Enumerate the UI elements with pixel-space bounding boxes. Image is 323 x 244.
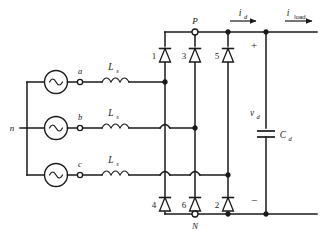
svg-text:i: i	[239, 8, 242, 18]
diode-3	[189, 49, 201, 63]
phase-c-branch	[27, 164, 230, 187]
ac-source-c	[45, 164, 68, 187]
diode-1	[159, 49, 171, 63]
svg-text:L: L	[107, 62, 113, 72]
diode-6	[189, 198, 201, 212]
terminal-c	[77, 172, 82, 177]
diode-4	[159, 198, 171, 212]
label-diode-1: 1	[152, 51, 157, 61]
label-current-id: i d	[239, 8, 248, 20]
label-terminal-a: a	[78, 66, 82, 76]
label-diode-4: 4	[152, 200, 157, 210]
label-inductor-b: L s	[107, 108, 119, 120]
diode-2	[222, 198, 234, 212]
label-diode-5: 5	[215, 51, 220, 61]
phase-b-branch	[27, 117, 197, 140]
junction-cap-bottom	[264, 212, 269, 217]
neutral-bus	[20, 82, 27, 175]
svg-text:C: C	[280, 130, 287, 140]
svg-text:d: d	[244, 13, 248, 20]
label-terminal-c: c	[78, 159, 82, 169]
circuit-diagram: n a b c L s L s L s 1 3 5 4 6 2 P N + −	[0, 0, 323, 244]
svg-text:L: L	[107, 108, 113, 118]
label-node-N: N	[191, 221, 199, 231]
diode-5	[222, 49, 234, 63]
ac-source-a	[45, 71, 68, 94]
phase-a-branch	[27, 71, 167, 94]
svg-text:s: s	[116, 67, 119, 74]
label-neutral: n	[10, 123, 15, 133]
junction-leg-c-top	[226, 30, 231, 35]
ac-source-b	[45, 117, 68, 140]
svg-text:d: d	[288, 135, 292, 142]
terminal-a	[77, 79, 82, 84]
label-polarity-minus: −	[251, 194, 257, 206]
label-polarity-plus: +	[251, 39, 257, 51]
svg-text:L: L	[107, 155, 113, 165]
label-inductor-c: L s	[107, 155, 119, 167]
circuit-canvas: n a b c L s L s L s 1 3 5 4 6 2 P N + −	[0, 0, 323, 244]
svg-text:d: d	[256, 113, 260, 120]
node-N	[192, 211, 198, 217]
inductor-b	[102, 124, 129, 128]
svg-text:i: i	[287, 8, 290, 18]
label-diode-3: 3	[182, 51, 187, 61]
bridge-leg-b	[189, 32, 201, 214]
bridge-leg-a	[159, 32, 171, 214]
label-vd: v d	[250, 108, 260, 120]
label-capacitor: C d	[280, 130, 293, 142]
svg-text:s: s	[116, 113, 119, 120]
label-node-P: P	[191, 16, 198, 26]
junction-cap-top	[264, 30, 269, 35]
junction-leg-c-bottom	[226, 212, 231, 217]
svg-text:load: load	[294, 14, 305, 20]
inductor-c	[102, 171, 129, 175]
bridge-leg-c	[222, 30, 234, 217]
label-diode-6: 6	[182, 200, 187, 210]
terminal-b	[77, 125, 82, 130]
label-inductor-a: L s	[107, 62, 119, 74]
node-P	[192, 29, 198, 35]
svg-text:s: s	[116, 160, 119, 167]
inductor-a	[102, 78, 129, 82]
svg-text:v: v	[250, 108, 255, 118]
label-diode-2: 2	[215, 200, 220, 210]
dc-capacitor-branch	[257, 30, 275, 217]
label-terminal-b: b	[78, 112, 82, 122]
label-current-iload: i load	[287, 8, 306, 20]
